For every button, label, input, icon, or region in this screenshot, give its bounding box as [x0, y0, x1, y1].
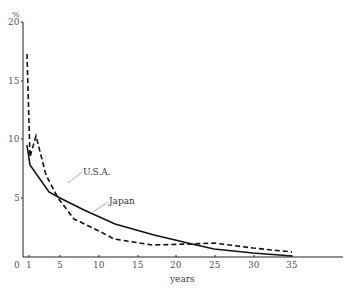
japan-line — [27, 145, 292, 256]
y-tick-20: 20 — [8, 17, 20, 27]
x-tick-1: 1 — [26, 260, 32, 270]
japan-label: Japan — [108, 196, 135, 206]
usa-line — [27, 54, 292, 252]
usa-leader-line — [68, 172, 82, 183]
origin-label: 0 — [14, 260, 20, 270]
y-tick-15: 15 — [8, 76, 20, 86]
x-axis-title: years — [169, 274, 195, 284]
japan-leader-line — [93, 202, 108, 212]
chart: % 20 15 10 5 0 1 5 10 15 20 25 30 35 yea… — [0, 0, 351, 294]
x-tick-10: 10 — [93, 260, 105, 270]
y-tick-10: 10 — [8, 134, 20, 144]
usa-label: U.S.A. — [83, 167, 111, 177]
x-tick-5: 5 — [57, 260, 63, 270]
x-tick-20: 20 — [170, 260, 182, 270]
y-tick-5: 5 — [14, 193, 20, 203]
x-tick-25: 25 — [209, 260, 221, 270]
x-tick-35: 35 — [286, 260, 298, 270]
x-tick-15: 15 — [132, 260, 144, 270]
x-tick-30: 30 — [248, 260, 260, 270]
